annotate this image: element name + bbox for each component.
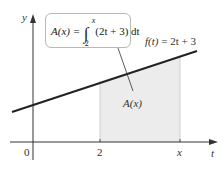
region-label: A(x) xyxy=(123,98,142,109)
lower-limit: 2 xyxy=(85,40,89,48)
y-axis-arrow-icon xyxy=(30,14,36,23)
integral-formula: A(x) = ∫x2 (2t + 3) dt xyxy=(51,25,140,42)
integral-callout-box: A(x) = ∫x2 (2t + 3) dt xyxy=(45,13,131,48)
upper-limit: x xyxy=(92,17,96,25)
integral-sign-icon: ∫x2 xyxy=(84,25,89,42)
tick-label-x: x xyxy=(177,147,182,158)
area-function-diagram: A(x) = ∫x2 (2t + 3) dt f(t) = 2t + 3 A(x… xyxy=(0,0,224,169)
y-axis-label: y xyxy=(22,12,27,23)
function-label-lhs: f(t) xyxy=(145,35,158,47)
integrand: (2t + 3) dt xyxy=(95,25,139,37)
origin-label: 0 xyxy=(24,147,30,158)
x-axis-label: t xyxy=(211,148,214,159)
x-axis-arrow-icon xyxy=(209,139,218,145)
function-label: f(t) = 2t + 3 xyxy=(145,36,196,47)
tick-label-2: 2 xyxy=(97,147,103,158)
function-label-rhs: = 2t + 3 xyxy=(161,35,196,47)
callout-lhs: A(x) = xyxy=(51,25,80,37)
